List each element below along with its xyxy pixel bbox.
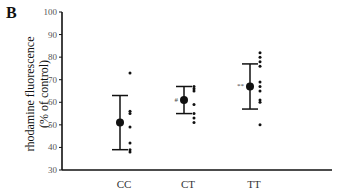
data-point [129,150,132,153]
y-tick-label: 30 [48,165,58,175]
data-point [259,123,262,126]
mean-marker [180,96,188,104]
y-tick-label: 80 [48,52,58,62]
x-category-label: TT [247,178,261,190]
y-tick-label: 60 [48,97,58,107]
data-point [259,85,262,88]
y-tick-label: 90 [48,30,58,40]
x-category-label: CC [117,178,132,190]
data-point [259,101,262,104]
mean-marker [116,119,124,127]
group-cc [112,71,132,153]
significance-annotation: ** [237,82,245,90]
data-point [259,51,262,54]
chart-plot: 30405060708090100 #** CCCTTT [0,0,338,194]
data-groups: #** [112,51,262,153]
data-point [129,141,132,144]
y-tick-label: 70 [48,75,58,85]
data-point [259,80,262,83]
y-tick-label: 40 [48,142,58,152]
axes [62,12,332,170]
data-point [259,56,262,59]
group-ct: # [175,85,196,124]
x-category-label: CT [181,178,195,190]
data-point [259,65,262,68]
y-tick-label: 100 [44,7,58,17]
group-tt: ** [237,51,262,126]
data-point [129,71,132,74]
y-tick-label: 50 [48,120,58,130]
data-point [193,117,196,120]
mean-marker [246,82,254,90]
data-point [129,126,132,129]
data-point [193,90,196,93]
data-point [193,103,196,106]
data-point [259,90,262,93]
significance-annotation: # [175,96,179,104]
data-point [193,121,196,124]
x-axis-categories: CCCTTT [117,178,261,190]
data-point [259,60,262,63]
y-axis-ticks: 30405060708090100 [44,7,63,175]
data-point [193,112,196,115]
data-point [129,112,132,115]
